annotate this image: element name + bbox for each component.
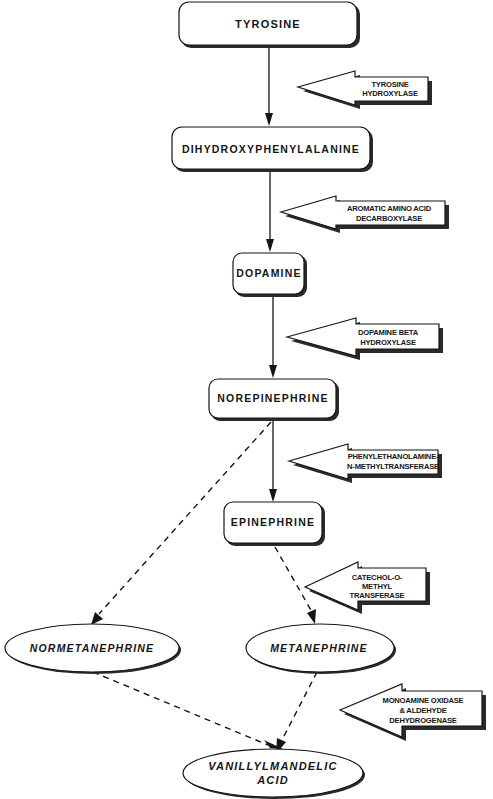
enzyme-comt-line3: TRANSFERASE (350, 591, 405, 600)
enzyme-tyrosine-hydroxylase-line2: HYDROXYLASE (362, 89, 418, 98)
edge-dopa-to-dopamine (266, 171, 274, 252)
node-norepinephrine: NOREPINEPHRINE (209, 379, 339, 421)
enzyme-tyrosine-hydroxylase: TYROSINE HYDROXYLASE (298, 71, 432, 109)
node-vma-label-line2: ACID (256, 774, 289, 786)
enzyme-tyrosine-hydroxylase-line1: TYROSINE (371, 80, 408, 89)
enzyme-pnmt-line2: N-METHYLTRANSFERASE (347, 462, 439, 471)
node-normetanephrine-label: NORMETANEPHRINE (30, 642, 155, 654)
enzyme-aadc-line2: DECARBOXYLASE (356, 214, 422, 223)
enzyme-dbh-line2: HYDROXYLASE (360, 338, 416, 347)
enzyme-dopamine-beta-hydroxylase: DOPAMINE BETA HYDROXYLASE (287, 318, 443, 360)
node-normetanephrine: NORMETANEPHRINE (5, 624, 181, 674)
enzyme-mao-line3: DEHYDROGENASE (389, 716, 457, 725)
node-dopa-label: DIHYDROXYPHENYLALANINE (182, 143, 360, 155)
node-epinephrine-label: EPINEPHRINE (231, 516, 315, 528)
node-vma-label-line1: VANILLYLMANDELIC (208, 760, 337, 772)
enzyme-pnmt: PHENYLETHANOLAMINE- N-METHYLTRANSFERASE (289, 444, 442, 483)
node-dopamine: DOPAMINE (233, 253, 307, 297)
node-tyrosine: TYROSINE (179, 2, 360, 48)
node-dopa: DIHYDROXYPHENYLALANINE (172, 127, 373, 172)
enzyme-mao-line2: & ALDEHYDE (399, 706, 446, 715)
pathway-diagram: TYROSINE DIHYDROXYPHENYLALANINE DOPAMINE… (0, 0, 493, 799)
enzyme-aromatic-amino-acid-decarboxylase: AROMATIC AMINO ACID DECARBOXYLASE (281, 196, 449, 233)
enzyme-comt-line1: CATECHOL-O- (352, 573, 403, 582)
enzyme-mao-line1: MONOAMINE OXIDASE (383, 696, 464, 705)
node-vma: VANILLYLMANDELIC ACID (183, 749, 365, 799)
edge-tyrosine-to-dopa (265, 46, 273, 126)
enzyme-pnmt-line1: PHENYLETHANOLAMINE- (348, 452, 439, 461)
node-epinephrine: EPINEPHRINE (224, 502, 325, 546)
node-metanephrine-label: METANEPHRINE (270, 642, 368, 654)
edge-dopamine-to-norepinephrine (269, 296, 277, 378)
node-tyrosine-label: TYROSINE (235, 18, 301, 30)
node-dopamine-label: DOPAMINE (236, 267, 301, 279)
edge-metanephrine-to-vma (276, 672, 317, 754)
enzyme-comt: CATECHOL-O- METHYL TRANSFERASE (305, 562, 430, 614)
enzyme-dbh-line1: DOPAMINE BETA (358, 328, 419, 337)
node-metanephrine: METANEPHRINE (246, 624, 396, 674)
enzyme-aadc-line1: AROMATIC AMINO ACID (347, 204, 432, 213)
node-norepinephrine-label: NOREPINEPHRINE (217, 392, 328, 404)
enzyme-comt-line2: METHYL (362, 582, 393, 591)
enzyme-mao-aldehyde-dehydrogenase: MONOAMINE OXIDASE & ALDEHYDE DEHYDROGENA… (340, 684, 486, 741)
edge-norepinephrine-to-epinephrine (269, 420, 277, 502)
edge-normetanephrine-to-vma (93, 672, 283, 749)
